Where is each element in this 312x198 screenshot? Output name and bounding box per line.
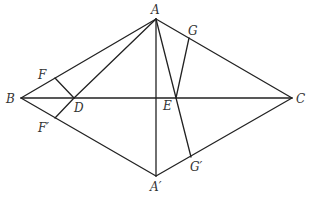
point-label-c: C xyxy=(296,92,305,106)
point-label-a: A xyxy=(150,3,160,17)
segment-a-c xyxy=(156,19,292,98)
point-label-g: G xyxy=(188,24,198,38)
segment-f-d xyxy=(55,78,74,98)
geometry-diagram: ABCA′DEFF′GG′ xyxy=(0,0,312,198)
segments xyxy=(21,19,292,176)
segment-g-e xyxy=(176,38,189,98)
segment-a2-c xyxy=(156,98,292,176)
point-label-f: F xyxy=(37,68,47,82)
segment-a-g2 xyxy=(156,19,191,157)
point-label-d: D xyxy=(73,101,84,115)
segment-a2-b xyxy=(21,98,156,176)
segment-f2-d xyxy=(55,98,74,118)
point-label-a2: A′ xyxy=(149,180,162,194)
point-label-b: B xyxy=(5,92,15,106)
point-label-e: E xyxy=(162,99,172,113)
segment-a-d xyxy=(74,19,156,98)
point-label-f2: F′ xyxy=(37,121,49,135)
segment-a-b xyxy=(21,19,156,98)
point-label-g2: G′ xyxy=(190,160,203,174)
